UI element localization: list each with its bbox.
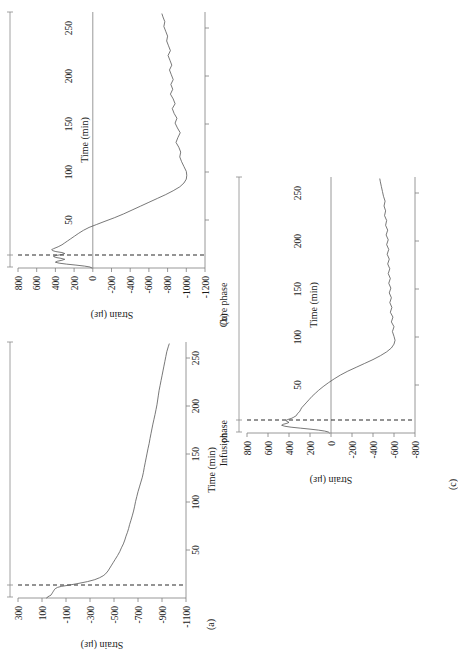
- y-tick-label: -200: [348, 441, 358, 459]
- y-tick-label: 100: [38, 606, 48, 621]
- x-tick-label: 100: [191, 495, 201, 510]
- infusion-phase-label-line2: phase: [218, 419, 229, 442]
- y-tick-label: -900: [158, 606, 168, 624]
- x-ticklabels-b: 50 100 150 200 250: [64, 21, 74, 225]
- panel-a-rotated-canvas: 50 100 150 200 250 Time (min) 300 100: [0, 330, 229, 660]
- x-tick-label: 50: [64, 215, 74, 225]
- y-tick-label: -800: [411, 441, 421, 459]
- x-tick-label: 100: [293, 330, 303, 345]
- y-tick-label: 400: [51, 276, 61, 291]
- strain-curve-c: [282, 179, 395, 433]
- x-axis-title-c: Time (min): [308, 282, 320, 327]
- y-tick-label: -600: [390, 441, 400, 459]
- panel-label-a-text: (a): [205, 619, 216, 630]
- x-tick-label: 200: [191, 399, 201, 414]
- chart-b: 50 100 150 200 250 Time (min) 800: [0, 0, 229, 330]
- x-tick-label: 250: [64, 21, 74, 36]
- y-ticks-c: 800 600 400 200 0 -200 -400 -600 -800: [243, 433, 421, 458]
- y-tick-label: 600: [32, 276, 42, 291]
- y-axis-title-b: Strain (με): [91, 309, 134, 321]
- x-ticks-b: [205, 28, 209, 220]
- panel-b-rotated-canvas: 50 100 150 200 250 Time (min) 800: [0, 0, 229, 330]
- x-tick-label: 100: [64, 165, 74, 180]
- y-tick-label: -1200: [201, 276, 211, 298]
- y-tick-label: 200: [306, 441, 316, 456]
- phase-annotations-b: Infusion phase Cure phase: [0, 12, 13, 301]
- y-tick-label: -500: [110, 606, 120, 624]
- chart-a: 50 100 150 200 250 Time (min) 300 100: [0, 330, 229, 660]
- y-tick-label: 800: [243, 441, 253, 456]
- x-ticks-a: 50 100 150 200 250: [186, 351, 201, 555]
- y-tick-label: -200: [107, 276, 117, 294]
- x-tick-label: 250: [293, 186, 303, 201]
- strain-curve-b: [52, 14, 187, 268]
- x-tick-label: 250: [191, 351, 201, 366]
- y-axis-title-c: Strain (με): [310, 474, 353, 486]
- panel-a: 50 100 150 200 250 Time (min) 300 100: [0, 330, 229, 660]
- y-tick-label: -400: [126, 276, 136, 294]
- x-ticklabels-c: 50 100 150 200 250: [293, 186, 303, 390]
- x-tick-label: 150: [293, 282, 303, 297]
- panel-c-rotated-canvas: 50 100 150 200 250 Time (min) 800 600: [229, 165, 458, 495]
- y-ticks-a: 300 100 -100 -300 -500 -700 -900 -1100: [14, 598, 192, 628]
- x-tick-label: 150: [64, 117, 74, 132]
- phase-annotations-a: Infusion phase Cure phase: [0, 342, 13, 631]
- y-tick-label: 300: [14, 606, 24, 621]
- y-tick-label: 200: [70, 276, 80, 291]
- y-tick-label: -1100: [182, 606, 192, 628]
- y-tick-label: 0: [327, 441, 337, 446]
- x-axis-title-b: Time (min): [79, 117, 91, 162]
- y-tick-label: -800: [163, 276, 173, 294]
- panel-label-a: (a): [205, 619, 216, 630]
- y-tick-label: -100: [62, 606, 72, 624]
- x-tick-label: 150: [191, 447, 201, 462]
- y-tick-label: -600: [144, 276, 154, 294]
- panel-label-c-text: (c): [447, 479, 458, 490]
- panel-c: 50 100 150 200 250 Time (min) 800 600: [229, 165, 458, 495]
- y-tick-label: 600: [264, 441, 274, 456]
- x-tick-label: 50: [191, 545, 201, 555]
- panel-b: 50 100 150 200 250 Time (min) 800: [0, 0, 229, 330]
- y-tick-label: -700: [134, 606, 144, 624]
- x-tick-label: 200: [64, 69, 74, 84]
- chart-c: 50 100 150 200 250 Time (min) 800 600: [229, 165, 458, 495]
- strain-curve-a: [47, 344, 169, 598]
- y-tick-label: -1000: [182, 276, 192, 298]
- x-ticks-c: [415, 193, 419, 385]
- y-tick-label: -400: [369, 441, 379, 459]
- x-axis-title-a: Time (min): [206, 447, 218, 492]
- x-tick-label: 50: [293, 380, 303, 390]
- y-tick-label: -300: [86, 606, 96, 624]
- cure-phase-label: Cure phase: [218, 282, 229, 327]
- y-tick-label: 400: [285, 441, 295, 456]
- y-tick-label: 800: [14, 276, 24, 291]
- panel-label-c: (c): [447, 479, 458, 490]
- y-ticks-b: 800 600 400 200 0 -200 -400 -600 -800 -1…: [14, 268, 211, 298]
- x-tick-label: 200: [293, 234, 303, 249]
- y-tick-label: 0: [88, 276, 98, 281]
- y-axis-title-a: Strain (με): [81, 639, 124, 651]
